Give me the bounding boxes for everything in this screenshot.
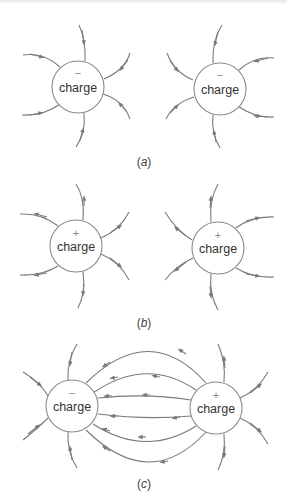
panel-b-left-charge: + charge (50, 220, 102, 272)
plus-sign-icon: + (215, 229, 221, 241)
charge-label: charge (53, 400, 91, 414)
panel-b-right-charge: + charge (192, 222, 244, 274)
panel-c-positive-charge: + charge (190, 382, 242, 434)
minus-sign-icon: − (69, 387, 75, 399)
plus-sign-icon: + (213, 389, 219, 401)
charge-label: charge (57, 240, 95, 254)
panel-a-left-charge: − charge (52, 61, 104, 113)
minus-sign-icon: − (75, 67, 81, 79)
minus-sign-icon: − (217, 69, 223, 81)
charge-label: charge (201, 83, 239, 97)
panel-b-caption: (b) (137, 316, 152, 330)
panel-c: − charge + charge (c) (23, 344, 268, 491)
panel-b: + charge + charge (b) (20, 184, 274, 330)
charge-label: charge (197, 402, 235, 416)
charge-label: charge (199, 242, 237, 256)
panel-a: − charge − charge (a) (22, 25, 274, 169)
panel-c-negative-charge: − charge (46, 380, 98, 432)
plus-sign-icon: + (73, 227, 79, 239)
panel-c-caption: (c) (137, 477, 151, 491)
electric-field-diagram: − charge − charge (a) (0, 0, 287, 499)
panel-a-caption: (a) (137, 155, 152, 169)
charge-label: charge (59, 81, 97, 95)
panel-c-connecting-field-lines (86, 350, 206, 462)
panel-a-right-charge: − charge (194, 63, 246, 115)
